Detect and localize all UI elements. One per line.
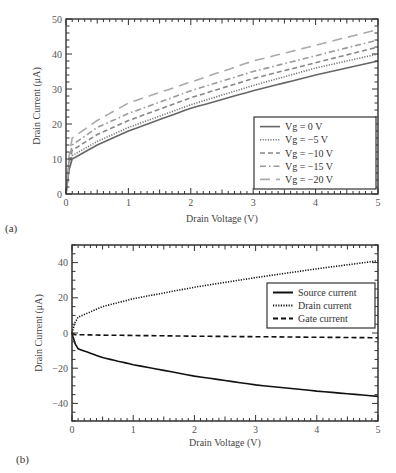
y-tick-label: 0 bbox=[63, 328, 68, 339]
x-tick-label: 2 bbox=[188, 197, 193, 208]
panel-b-legend: Source currentDrain currentGate current bbox=[267, 283, 375, 328]
x-tick-label: 2 bbox=[192, 424, 197, 435]
curve-source-current bbox=[72, 333, 378, 396]
panel-a-xtick-labels: 012345 bbox=[64, 197, 381, 208]
panel-a-legend: Vg = 0 VVg = −5 VVg = −10 VVg = −15 VVg … bbox=[254, 117, 376, 189]
y-tick-label: 40 bbox=[52, 49, 62, 60]
x-tick-label: 5 bbox=[376, 424, 381, 435]
legend-label: Vg = −20 V bbox=[285, 174, 334, 185]
panel-a: 012345 01020304050 Drain Voltage (V) Dra… bbox=[5, 14, 381, 236]
x-tick-label: 3 bbox=[251, 197, 256, 208]
y-tick-label: 40 bbox=[58, 257, 68, 268]
panel-b-xtick-labels: 012345 bbox=[70, 424, 381, 435]
y-tick-label: 20 bbox=[58, 292, 68, 303]
panel-b: 012345 −40−2002040 Drain Voltage (V) Dra… bbox=[16, 245, 381, 466]
figure-canvas: 012345 01020304050 Drain Voltage (V) Dra… bbox=[0, 0, 396, 473]
legend-label: Vg = 0 V bbox=[285, 121, 323, 132]
panel-b-ytick-labels: −40−2002040 bbox=[52, 257, 68, 409]
legend-label: Vg = −5 V bbox=[285, 134, 329, 145]
panel-b-y-axis-title: Drain Current (μA) bbox=[33, 294, 45, 372]
legend-label: Vg = −15 V bbox=[285, 161, 334, 172]
y-tick-label: 0 bbox=[57, 189, 62, 200]
legend-label: Source current bbox=[298, 287, 357, 298]
legend-label: Drain current bbox=[298, 300, 352, 311]
y-tick-label: 20 bbox=[52, 119, 62, 130]
panel-a-x-axis-title: Drain Voltage (V) bbox=[186, 213, 258, 225]
y-tick-label: 50 bbox=[52, 14, 62, 25]
legend-label: Gate current bbox=[298, 313, 348, 324]
x-tick-label: 3 bbox=[253, 424, 258, 435]
panel-b-ticks bbox=[72, 245, 378, 421]
y-tick-label: −40 bbox=[52, 398, 68, 409]
x-tick-label: 1 bbox=[126, 197, 131, 208]
x-tick-label: 0 bbox=[64, 197, 69, 208]
x-tick-label: 1 bbox=[131, 424, 136, 435]
y-tick-label: −20 bbox=[52, 363, 68, 374]
y-tick-label: 30 bbox=[52, 84, 62, 95]
curve-gate-current bbox=[72, 333, 378, 338]
x-tick-label: 5 bbox=[376, 197, 381, 208]
x-tick-label: 4 bbox=[313, 197, 318, 208]
legend-label: Vg = −10 V bbox=[285, 148, 334, 159]
x-tick-label: 4 bbox=[314, 424, 319, 435]
panel-a-ytick-labels: 01020304050 bbox=[52, 14, 62, 200]
y-tick-label: 10 bbox=[52, 154, 62, 165]
panel-a-y-axis-title: Drain Current (μA) bbox=[31, 67, 43, 145]
panel-b-x-axis-title: Drain Voltage (V) bbox=[189, 437, 261, 449]
x-tick-label: 0 bbox=[70, 424, 75, 435]
panel-b-label: (b) bbox=[16, 453, 29, 466]
panel-b-frame bbox=[72, 245, 378, 421]
panel-a-label: (a) bbox=[5, 222, 18, 235]
